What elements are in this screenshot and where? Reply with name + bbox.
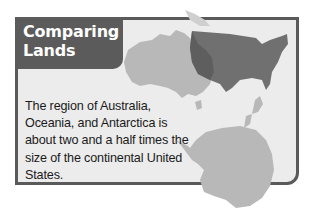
body-text: The region of Australia, Oceania, and An… (25, 98, 190, 184)
comparing-lands-box: Comparing Lands The region of Australia,… (15, 17, 299, 185)
title-line-2: Lands (23, 41, 123, 60)
title-tab: Comparing Lands (15, 17, 123, 69)
title-line-1: Comparing (23, 22, 123, 41)
